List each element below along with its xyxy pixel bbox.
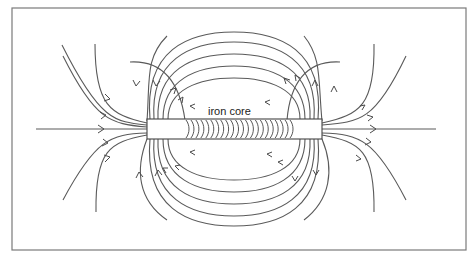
iron-core [147,119,322,139]
solenoid-field-diagram: iron core [0,0,471,257]
field-lines-lower-loops [149,139,318,226]
iron-core-label: iron core [208,105,251,117]
